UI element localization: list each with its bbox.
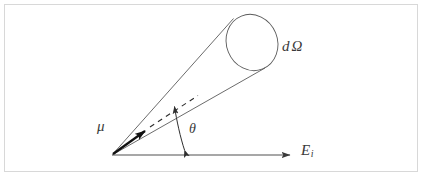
solid-angle-omega-glyph: Ω: [292, 38, 303, 54]
cone-upper-edge: [112, 19, 234, 156]
incident-energy-label: Ei: [301, 143, 313, 159]
solid-angle-label: dΩ: [282, 39, 302, 54]
solid-angle-cap-ellipse: [218, 7, 287, 79]
cone-lower-edge: [112, 68, 265, 155]
mu-vector-arrow: [113, 131, 145, 154]
solid-angle-differential-d: d: [282, 38, 290, 54]
incident-energy-subscript: i: [311, 148, 314, 159]
incident-energy-base-glyph: E: [301, 142, 310, 158]
theta-label: θ: [189, 122, 196, 136]
cone-diagram-svg: [0, 0, 423, 177]
theta-angle-arc: [175, 107, 185, 151]
mu-label: μ: [97, 119, 105, 134]
figure-canvas: μ θ dΩ Ei: [0, 0, 423, 177]
